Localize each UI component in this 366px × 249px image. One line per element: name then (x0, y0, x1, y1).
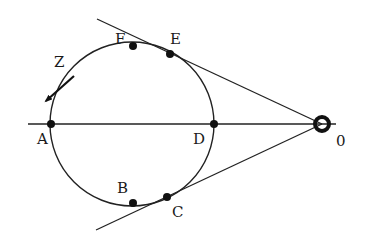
upper-tangent-line (97, 19, 322, 124)
point-b-label: B (117, 179, 128, 197)
point-f-dot (129, 42, 137, 50)
circle-tangent-diagram: Z 0 ADEFBC (0, 0, 366, 249)
source-label: 0 (336, 132, 346, 150)
point-a-label: A (36, 130, 48, 148)
point-f-label: F (115, 30, 125, 48)
point-e-dot (166, 50, 174, 58)
point-a-dot (47, 120, 55, 128)
point-c-dot (163, 193, 171, 201)
point-e-label: E (170, 30, 181, 48)
point-c-label: C (172, 203, 183, 221)
source-point-o: 0 (315, 117, 346, 150)
arrow-label-z: Z (54, 53, 64, 71)
direction-arrow-icon (46, 76, 74, 101)
lower-tangent-line (96, 124, 322, 230)
point-b-dot (129, 199, 137, 207)
point-d-label: D (193, 130, 205, 148)
point-d-dot (210, 120, 218, 128)
